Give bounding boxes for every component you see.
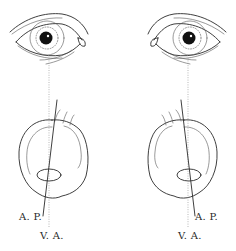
right-external-eye-icon xyxy=(148,14,226,64)
left-globe-section-icon xyxy=(19,110,88,198)
left-ap-label: A. P. xyxy=(19,211,42,222)
left-external-eye-icon xyxy=(10,14,88,64)
right-va-label: V. A. xyxy=(178,230,202,241)
left-va-label: V. A. xyxy=(40,230,64,241)
left-panel xyxy=(10,14,88,228)
right-globe-section-icon xyxy=(148,110,217,198)
right-panel xyxy=(148,14,226,228)
right-pupillary-axis xyxy=(181,100,195,216)
right-ap-label: A. P. xyxy=(195,211,218,222)
left-pupillary-axis xyxy=(43,100,57,216)
